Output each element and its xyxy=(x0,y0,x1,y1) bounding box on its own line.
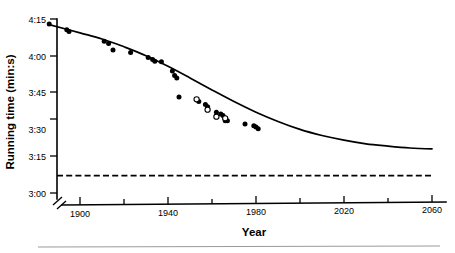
y-tick-label: 4:15 xyxy=(28,15,46,25)
data-point xyxy=(159,59,164,64)
data-point xyxy=(194,97,199,102)
data-point xyxy=(170,69,175,74)
axis-break-icon xyxy=(53,197,66,209)
data-point xyxy=(177,95,182,100)
y-tick-label: 3:00 xyxy=(28,189,46,199)
data-point xyxy=(243,122,248,127)
x-axis xyxy=(62,195,446,205)
x-tick-label: 1940 xyxy=(158,208,178,218)
data-point xyxy=(67,29,72,34)
y-tick-label: 3:15 xyxy=(28,152,46,162)
data-point xyxy=(256,126,261,131)
data-point xyxy=(146,55,151,60)
data-point xyxy=(174,75,179,80)
mile-record-figure: Running time (min:s) 4:15 4:00 3:45 3:30… xyxy=(0,0,455,253)
data-point xyxy=(111,48,116,53)
y-axis-title: Running time (min:s) xyxy=(4,54,16,169)
y-axis-tick-labels: 4:15 4:00 3:45 3:30 3:15 3:00 xyxy=(28,15,46,199)
data-point xyxy=(152,59,157,64)
y-tick-label: 3:30 xyxy=(28,125,46,135)
data-point xyxy=(205,107,210,112)
x-tick-label: 2020 xyxy=(334,206,354,216)
data-point xyxy=(128,50,133,55)
x-axis-tick-labels: 1900 1940 1980 2020 2060 xyxy=(70,205,442,219)
y-axis xyxy=(50,19,57,199)
x-tick-label: 1900 xyxy=(70,209,90,219)
data-point xyxy=(214,114,219,119)
y-tick-label: 3:45 xyxy=(28,88,46,98)
data-point xyxy=(47,22,52,27)
x-tick-label: 1980 xyxy=(246,207,266,217)
data-points-filled xyxy=(47,22,261,132)
x-axis-title: Year xyxy=(242,226,267,238)
data-point xyxy=(223,116,228,121)
footer-divider xyxy=(38,246,440,247)
data-point xyxy=(102,39,107,44)
y-tick-label: 4:00 xyxy=(28,52,46,62)
x-tick-label: 2060 xyxy=(422,205,442,215)
running-time-scatter-chart: Running time (min:s) 4:15 4:00 3:45 3:30… xyxy=(0,0,455,253)
data-points-open xyxy=(194,97,228,121)
data-point xyxy=(106,41,111,46)
